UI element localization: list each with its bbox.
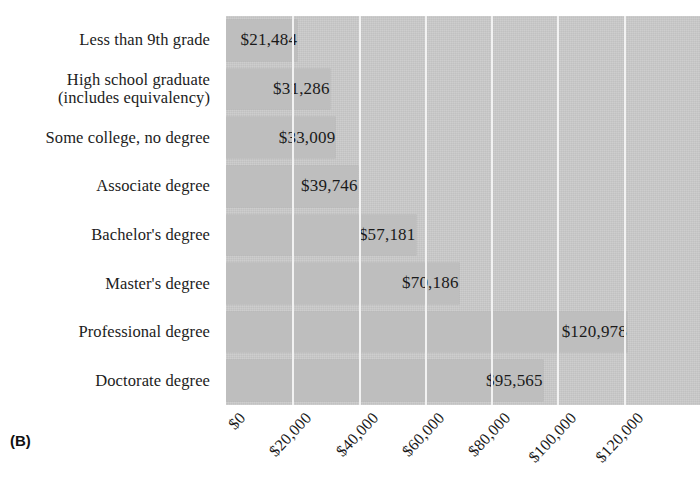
gridline <box>557 16 559 405</box>
bar-row[interactable]: $39,746 <box>226 162 700 211</box>
bar-row[interactable]: $70,186 <box>226 259 700 308</box>
x-axis-tick-label: $100,000 <box>525 409 580 466</box>
x-axis-tick-label: $40,000 <box>332 409 382 460</box>
bar-row[interactable]: $31,286 <box>226 65 700 114</box>
bar-row[interactable]: $33,009 <box>226 113 700 162</box>
y-axis-label: Doctorate degree <box>0 356 218 405</box>
bar-value-label: $120,978 <box>226 322 633 342</box>
y-axis-label-line: (includes equivalency) <box>58 89 210 107</box>
bar-value-label: $57,181 <box>226 225 422 245</box>
y-axis-label-line: Associate degree <box>96 177 210 195</box>
gridline <box>292 16 294 405</box>
gridline <box>491 16 493 405</box>
bar-value-label: $33,009 <box>226 128 341 148</box>
y-axis-label-line: Doctorate degree <box>95 372 210 390</box>
y-axis-label: Master's degree <box>0 259 218 308</box>
y-axis-label: Some college, no degree <box>0 113 218 162</box>
x-axis-tick-label: $80,000 <box>465 409 515 460</box>
x-axis-tick-labels: $0$20,000$40,000$60,000$80,000$100,000$1… <box>226 405 700 488</box>
y-axis-label: High school graduate(includes equivalenc… <box>0 65 218 114</box>
plot-area: $21,484$31,286$33,009$39,746$57,181$70,1… <box>226 16 700 405</box>
bar-value-label: $95,565 <box>226 371 549 391</box>
panel-label: (B) <box>10 432 31 449</box>
x-axis-tick-label: $20,000 <box>266 409 316 460</box>
y-axis-label-line: Professional degree <box>78 323 210 341</box>
bar-row[interactable]: $57,181 <box>226 211 700 260</box>
y-axis-label: Less than 9th grade <box>0 16 218 65</box>
gridline <box>425 16 427 405</box>
bar-row[interactable]: $120,978 <box>226 308 700 357</box>
y-axis-label-line: Some college, no degree <box>46 129 211 147</box>
bar-series: $21,484$31,286$33,009$39,746$57,181$70,1… <box>226 16 700 405</box>
y-axis-category-labels: Less than 9th gradeHigh school graduate(… <box>0 16 218 405</box>
x-axis-tick-label: $60,000 <box>398 409 448 460</box>
y-axis-label-line: Master's degree <box>105 275 210 293</box>
cutoff-title <box>226 0 700 15</box>
x-axis-tick-label: $0 <box>225 409 249 433</box>
y-axis-label-line: Less than 9th grade <box>79 31 210 49</box>
figure-panel-b: Less than 9th gradeHigh school graduate(… <box>0 0 700 488</box>
y-axis-label: Associate degree <box>0 162 218 211</box>
y-axis-label-line: Bachelor's degree <box>91 226 210 244</box>
y-axis-label-line: High school graduate <box>58 71 210 89</box>
gridline <box>624 16 626 405</box>
y-axis-label: Bachelor's degree <box>0 211 218 260</box>
bar-row[interactable]: $21,484 <box>226 16 700 65</box>
y-axis-label: Professional degree <box>0 308 218 357</box>
bar-value-label: $31,286 <box>226 79 336 99</box>
x-axis-tick-label: $120,000 <box>592 409 647 466</box>
bar-value-label: $70,186 <box>226 273 465 293</box>
bar-row[interactable]: $95,565 <box>226 356 700 405</box>
bar-value-label: $39,746 <box>226 176 364 196</box>
gridline <box>359 16 361 405</box>
